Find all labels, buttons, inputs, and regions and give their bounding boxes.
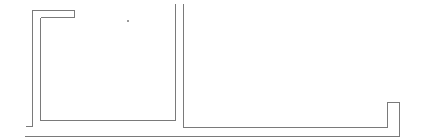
small-dot <box>127 20 129 22</box>
wall-diagram <box>0 0 421 140</box>
right-room-outline <box>184 4 400 137</box>
inner-left-room-outline <box>41 4 176 121</box>
outer-left-wall <box>26 11 75 127</box>
